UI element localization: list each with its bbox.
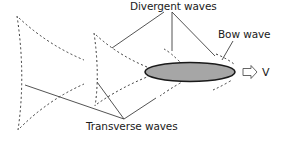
velocity-label: V [262,67,269,78]
ship-hull [145,63,235,82]
transverse-waves-label: Transverse waves [86,121,178,132]
divergent-pointer-1 [112,12,164,48]
left-lower-transverse [20,84,84,128]
front-lower-divergent [160,82,182,96]
wave-group-left [17,16,84,130]
middle-divergent-edge [94,33,97,106]
transverse-pointer-1 [25,85,124,119]
transverse-pointer-2 [97,82,124,119]
velocity-arrow-icon [243,66,257,79]
transverse-pointer-3 [124,98,156,119]
middle-lower-transverse [97,77,147,104]
divergent-waves-label: Divergent waves [130,1,217,12]
bow-pointer [222,41,233,60]
wave-group-middle [94,33,147,106]
left-upper-transverse [19,18,84,60]
divergent-pointer-3 [172,12,215,56]
middle-upper-transverse [96,35,147,67]
bow-lower [213,80,232,90]
left-divergent-edge [17,16,22,130]
bow-wave-label: Bow wave [218,29,270,40]
